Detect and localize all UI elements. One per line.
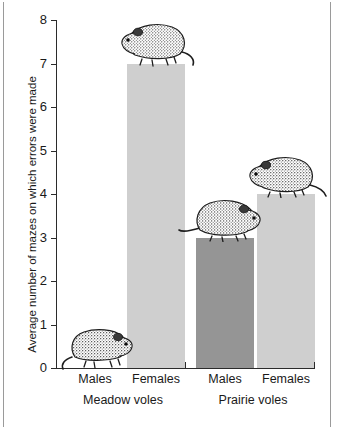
y-tick-7 — [51, 64, 57, 65]
figure-frame-left-rule — [3, 2, 4, 427]
x-axis-right-end-tick — [314, 362, 315, 369]
x-category-label-prairie-males: Males — [196, 372, 254, 386]
y-tick-3 — [51, 238, 57, 239]
bar-prairie-males — [196, 238, 254, 369]
y-tick-8 — [51, 20, 57, 21]
y-tick-1 — [51, 325, 57, 326]
vole-illustration-prairie-females — [246, 148, 328, 198]
x-category-label-prairie-females: Females — [254, 372, 318, 386]
vole-illustration-meadow-males — [58, 317, 136, 371]
x-category-label-meadow-females: Females — [124, 372, 188, 386]
y-tick-6 — [51, 107, 57, 108]
y-tick-0 — [51, 368, 57, 369]
bar-prairie-females — [257, 194, 315, 368]
y-tick-2 — [51, 281, 57, 282]
x-group-label-meadow-voles: Meadow voles — [60, 393, 186, 407]
chart-figure: 8 7 6 5 4 3 2 1 0 Average number of maze… — [0, 0, 342, 429]
x-category-label-meadow-males: Males — [66, 372, 124, 386]
vole-illustration-meadow-females — [116, 14, 200, 68]
y-axis-title: Average number of mazes on which errors … — [24, 0, 40, 429]
x-axis-group-separator-tick — [185, 362, 186, 369]
y-tick-5 — [51, 151, 57, 152]
x-group-label-prairie-voles: Prairie voles — [190, 393, 316, 407]
y-tick-4 — [51, 194, 57, 195]
figure-frame-right-rule — [330, 2, 331, 427]
